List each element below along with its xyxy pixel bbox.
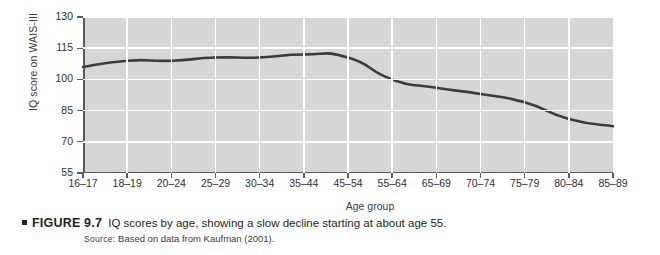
caption-main-line: FIGURE 9.7 IQ scores by age, showing a s… bbox=[22, 216, 642, 230]
gridline-vertical bbox=[259, 17, 261, 173]
gridline-vertical bbox=[391, 17, 393, 173]
gridline-vertical bbox=[568, 17, 570, 173]
x-tick-label: 85–89 bbox=[583, 177, 643, 189]
source-label: Source: bbox=[84, 234, 115, 244]
x-axis-title: Age group bbox=[0, 200, 660, 212]
gridline-vertical bbox=[436, 17, 438, 173]
y-tick-mark bbox=[77, 110, 83, 111]
gridline-vertical bbox=[171, 17, 173, 173]
y-tick-label: 85 bbox=[33, 104, 73, 116]
gridline-vertical bbox=[480, 17, 482, 173]
gridline-vertical bbox=[126, 17, 128, 173]
y-tick-label: 70 bbox=[33, 135, 73, 147]
y-tick-mark bbox=[77, 79, 83, 80]
figure-container: IQ score on WAIS-III 557085100115130 16–… bbox=[0, 0, 660, 255]
source-text: Based on data from Kaufman (2001). bbox=[118, 233, 274, 244]
caption-bullet-icon bbox=[22, 220, 27, 225]
y-tick-label: 100 bbox=[33, 72, 73, 84]
y-tick-label: 115 bbox=[33, 41, 73, 53]
y-tick-mark bbox=[77, 141, 83, 142]
gridline-vertical bbox=[215, 17, 217, 173]
y-tick-mark bbox=[77, 48, 83, 49]
caption-source-line: Source: Based on data from Kaufman (2001… bbox=[84, 233, 642, 244]
y-tick-mark bbox=[77, 16, 83, 17]
caption-text: IQ scores by age, showing a slow decline… bbox=[108, 217, 446, 229]
y-tick-label: 130 bbox=[33, 10, 73, 22]
plot-area bbox=[83, 17, 613, 173]
gridline-vertical bbox=[347, 17, 349, 173]
figure-number: FIGURE 9.7 bbox=[32, 216, 102, 230]
gridline-vertical bbox=[524, 17, 526, 173]
figure-caption: FIGURE 9.7 IQ scores by age, showing a s… bbox=[22, 216, 642, 244]
chart-area: IQ score on WAIS-III 557085100115130 16–… bbox=[0, 0, 660, 196]
gridline-vertical bbox=[303, 17, 305, 173]
